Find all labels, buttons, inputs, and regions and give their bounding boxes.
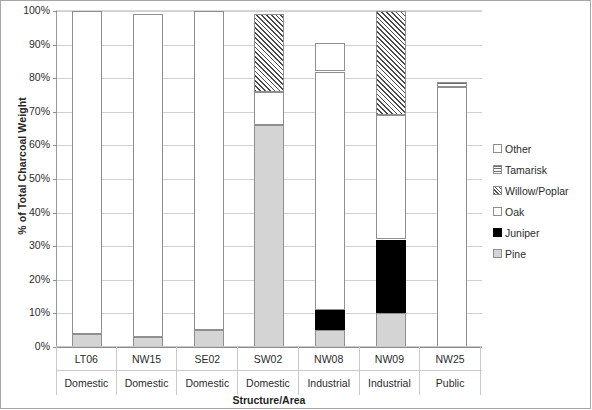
bar-nw09[interactable] bbox=[376, 11, 406, 347]
bar-segment-pine[interactable] bbox=[376, 313, 406, 347]
bar-slot bbox=[421, 11, 482, 347]
bar-segment-pine[interactable] bbox=[315, 330, 345, 347]
legend-label: Pine bbox=[505, 248, 526, 260]
bar-segment-oak[interactable] bbox=[376, 115, 406, 239]
category-group-public: Public bbox=[420, 371, 481, 395]
y-axis-tick-label: 100% bbox=[23, 4, 50, 16]
legend-item-oak[interactable]: Oak bbox=[493, 201, 592, 222]
bar-lt06[interactable] bbox=[72, 11, 102, 347]
legend-item-tamarisk[interactable]: Tamarisk bbox=[493, 159, 592, 180]
category-group-domestic: Domestic bbox=[238, 371, 299, 395]
legend-item-willow-poplar[interactable]: Willow/Poplar bbox=[493, 180, 592, 201]
chart-legend: OtherTamariskWillow/PoplarOakJuniperPine bbox=[493, 138, 592, 264]
bar-segment-juniper[interactable] bbox=[315, 310, 345, 330]
legend-label: Juniper bbox=[505, 227, 539, 239]
bar-segment-oak[interactable] bbox=[72, 11, 102, 334]
category-label-nw15: NW15 bbox=[117, 347, 178, 371]
pine-swatch bbox=[493, 249, 502, 258]
y-axis-tick-label: 0% bbox=[35, 340, 50, 352]
category-label-nw09: NW09 bbox=[360, 347, 421, 371]
y-axis-tick-label: 70% bbox=[29, 105, 50, 117]
y-axis-tick-label: 10% bbox=[29, 306, 50, 318]
bar-segment-juniper[interactable] bbox=[376, 240, 406, 314]
bar-sw02[interactable] bbox=[254, 11, 284, 347]
category-axis-row-labels: LT06NW15SE02SW02NW08NW09NW25 bbox=[56, 346, 482, 371]
bar-segment-oak[interactable] bbox=[315, 72, 345, 311]
legend-label: Willow/Poplar bbox=[505, 185, 569, 197]
category-label-lt06: LT06 bbox=[56, 347, 117, 371]
bar-series-container bbox=[57, 11, 482, 347]
category-group-industrial: Industrial bbox=[299, 371, 360, 395]
bar-slot bbox=[178, 11, 239, 347]
category-group-industrial: Industrial bbox=[360, 371, 421, 395]
bar-segment-other[interactable] bbox=[315, 43, 345, 72]
bar-segment-willow-poplar[interactable] bbox=[254, 14, 284, 91]
category-axis: LT06NW15SE02SW02NW08NW09NW25 DomesticDom… bbox=[56, 346, 482, 394]
bar-slot bbox=[361, 11, 422, 347]
y-axis-tick-label: 30% bbox=[29, 239, 50, 251]
y-axis-tick-label: 80% bbox=[29, 71, 50, 83]
bar-segment-pine[interactable] bbox=[72, 334, 102, 347]
category-label-nw08: NW08 bbox=[299, 347, 360, 371]
bar-segment-pine[interactable] bbox=[194, 330, 224, 347]
y-axis-tick-label: 60% bbox=[29, 138, 50, 150]
bar-segment-pine[interactable] bbox=[254, 125, 284, 347]
legend-label: Oak bbox=[505, 206, 524, 218]
legend-label: Tamarisk bbox=[505, 164, 547, 176]
bar-segment-oak[interactable] bbox=[437, 87, 467, 347]
y-axis-tick-labels: 0%10%20%30%40%50%60%70%80%90%100% bbox=[8, 0, 54, 356]
stacked-bar-chart: % of Total Charcoal Weight 0%10%20%30%40… bbox=[0, 0, 592, 410]
legend-item-other[interactable]: Other bbox=[493, 138, 592, 159]
legend-label: Other bbox=[505, 143, 531, 155]
bar-nw08[interactable] bbox=[315, 11, 345, 347]
y-axis-tick-label: 20% bbox=[29, 273, 50, 285]
x-axis-title: Structure/Area bbox=[56, 394, 482, 406]
bar-slot bbox=[118, 11, 179, 347]
category-label-sw02: SW02 bbox=[238, 347, 299, 371]
bar-segment-oak[interactable] bbox=[133, 14, 163, 337]
plot-area bbox=[56, 10, 482, 347]
category-label-nw25: NW25 bbox=[420, 347, 481, 371]
bar-slot bbox=[300, 11, 361, 347]
bar-segment-oak[interactable] bbox=[254, 92, 284, 126]
bar-nw25[interactable] bbox=[437, 11, 467, 347]
legend-item-juniper[interactable]: Juniper bbox=[493, 222, 592, 243]
category-label-se02: SE02 bbox=[177, 347, 238, 371]
legend-item-pine[interactable]: Pine bbox=[493, 243, 592, 264]
y-axis-tick-label: 40% bbox=[29, 206, 50, 218]
willow-poplar-swatch bbox=[493, 186, 502, 195]
bar-slot bbox=[239, 11, 300, 347]
juniper-swatch bbox=[493, 228, 502, 237]
category-group-domestic: Domestic bbox=[56, 371, 117, 395]
tamarisk-swatch bbox=[493, 165, 502, 174]
other-swatch bbox=[493, 144, 502, 153]
bar-se02[interactable] bbox=[194, 11, 224, 347]
oak-swatch bbox=[493, 207, 502, 216]
category-axis-row-groups: DomesticDomesticDomesticDomesticIndustri… bbox=[56, 370, 482, 395]
y-axis-tick-label: 90% bbox=[29, 38, 50, 50]
y-axis-tick-label: 50% bbox=[29, 172, 50, 184]
bar-nw15[interactable] bbox=[133, 11, 163, 347]
category-group-domestic: Domestic bbox=[117, 371, 178, 395]
category-group-domestic: Domestic bbox=[177, 371, 238, 395]
bar-segment-tamarisk[interactable] bbox=[437, 82, 467, 87]
bar-segment-willow-poplar[interactable] bbox=[376, 11, 406, 115]
bar-segment-oak[interactable] bbox=[194, 11, 224, 330]
bar-slot bbox=[57, 11, 118, 347]
